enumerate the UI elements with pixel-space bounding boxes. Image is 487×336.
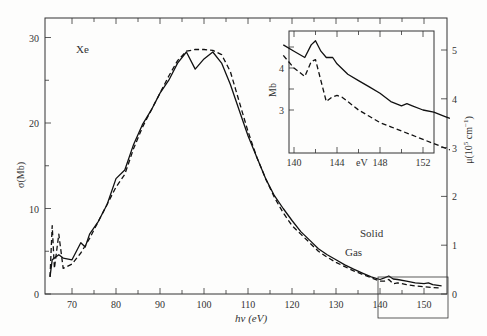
- svg-text:5: 5: [452, 45, 457, 56]
- y-axis-left-label: σ(Mb): [15, 162, 27, 188]
- svg-text:90: 90: [155, 299, 165, 310]
- element-label: Xe: [76, 43, 89, 55]
- svg-text:3: 3: [279, 105, 284, 116]
- svg-text:70: 70: [67, 299, 77, 310]
- svg-text:100: 100: [197, 299, 212, 310]
- inset-plot: 14014414815234: [279, 31, 450, 168]
- svg-text:10: 10: [29, 204, 39, 215]
- svg-text:4: 4: [279, 63, 284, 74]
- svg-text:2: 2: [452, 191, 457, 202]
- svg-text:144: 144: [330, 157, 345, 168]
- svg-text:110: 110: [241, 299, 256, 310]
- inset-region-box: [378, 277, 448, 318]
- svg-text:30: 30: [29, 33, 39, 44]
- svg-text:140: 140: [373, 299, 388, 310]
- svg-text:148: 148: [373, 157, 388, 168]
- svg-text:152: 152: [416, 157, 431, 168]
- photoabsorption-chart: 7080901001101201301401500102030012345 14…: [0, 0, 487, 336]
- inset-x-label: eV: [356, 157, 368, 168]
- x-axis-label: hν (eV): [235, 312, 267, 325]
- svg-text:4: 4: [452, 94, 457, 105]
- svg-text:20: 20: [29, 118, 39, 129]
- svg-text:0: 0: [34, 289, 39, 300]
- y-axis-right-label: μ(105 cm−1): [462, 116, 475, 164]
- svg-text:3: 3: [452, 143, 457, 154]
- svg-text:120: 120: [285, 299, 300, 310]
- solid-label: Solid: [360, 227, 384, 239]
- svg-text:1: 1: [452, 240, 457, 251]
- svg-text:0: 0: [452, 289, 457, 300]
- svg-text:140: 140: [287, 157, 302, 168]
- inset-y-label: Mb: [267, 83, 278, 97]
- svg-text:80: 80: [111, 299, 121, 310]
- svg-text:130: 130: [329, 299, 344, 310]
- svg-text:150: 150: [417, 299, 432, 310]
- gas-label: Gas: [345, 246, 362, 258]
